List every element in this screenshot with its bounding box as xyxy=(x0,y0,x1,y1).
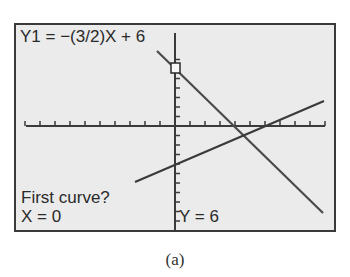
cursor-y-value: Y = 6 xyxy=(179,208,219,225)
trace-cursor xyxy=(171,63,180,73)
equation-label: Y1 = −(3/2)X + 6 xyxy=(20,28,145,45)
figure-caption: (a) xyxy=(0,250,350,270)
line-y2 xyxy=(135,101,324,182)
cursor-x-value: X = 0 xyxy=(21,208,61,225)
line-y1 xyxy=(157,51,323,213)
calculator-screen: Y1 = −(3/2)X + 6 First curve? X = 0 Y = … xyxy=(14,23,336,232)
prompt-text: First curve? xyxy=(21,189,110,206)
